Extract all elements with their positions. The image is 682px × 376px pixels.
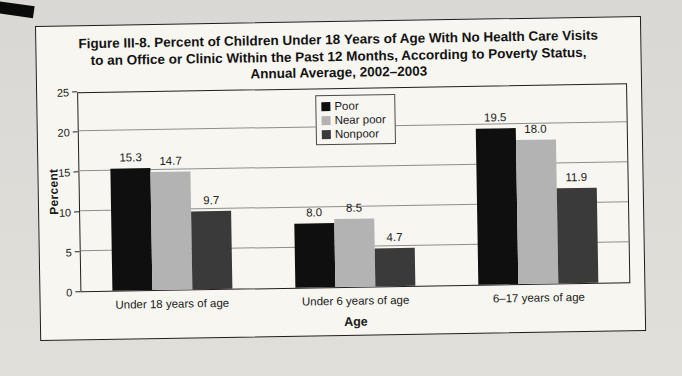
scan-edge-artifact: [0, 0, 35, 18]
bar-value-label: 18.0: [524, 123, 547, 135]
x-category-label: Under 6 years of age: [264, 293, 448, 308]
bar-near-poor: 8.5: [334, 218, 375, 287]
legend: PoorNear poorNonpoor: [315, 94, 396, 145]
legend-label: Nonpoor: [335, 127, 379, 140]
bar-value-label: 19.5: [484, 111, 507, 123]
bar-poor: 19.5: [475, 128, 518, 285]
bar-value-label: 8.0: [306, 206, 322, 218]
bar-near-poor: 18.0: [516, 139, 558, 284]
y-tick-label: 0: [66, 286, 72, 298]
y-tick-label: 25: [57, 86, 69, 98]
bar-group: 15.314.79.7: [78, 90, 264, 291]
y-tick-label: 10: [59, 206, 71, 218]
bar-nonpoor: 4.7: [375, 248, 416, 286]
bar-nonpoor: 11.9: [556, 188, 598, 284]
bar-chart: Percent 0510152025 15.314.79.78.08.54.71…: [36, 17, 645, 340]
bar-value-label: 15.3: [119, 151, 142, 163]
legend-item: Poor: [321, 99, 385, 112]
plot-area: 15.314.79.78.08.54.719.518.011.9 PoorNea…: [77, 83, 630, 292]
bar-near-poor: 14.7: [151, 172, 193, 290]
bar-nonpoor: 9.7: [191, 211, 232, 289]
bar-poor: 15.3: [111, 168, 153, 291]
x-category-label: 6–17 years of age: [447, 290, 631, 305]
bar-group: 19.518.011.9: [443, 84, 629, 285]
y-tick-label: 15: [58, 166, 70, 178]
legend-swatch: [322, 116, 331, 125]
legend-swatch: [321, 102, 330, 111]
x-axis-label: Age: [81, 310, 631, 333]
legend-label: Near poor: [335, 113, 386, 126]
legend-swatch: [322, 130, 331, 139]
bar-value-label: 14.7: [159, 155, 182, 167]
bar-value-label: 9.7: [203, 194, 219, 206]
y-tick-label: 20: [57, 126, 69, 138]
y-tick-label: 5: [66, 246, 72, 258]
bar-value-label: 8.5: [346, 202, 362, 214]
bar-value-label: 11.9: [565, 171, 587, 183]
scanned-page: { "chart_data": { "type": "bar", "title"…: [0, 0, 682, 376]
legend-label: Poor: [334, 100, 358, 112]
figure-box: Figure III-8. Percent of Children Under …: [35, 16, 646, 341]
bar-poor: 8.0: [294, 223, 335, 288]
x-category-labels: Under 18 years of ageUnder 6 years of ag…: [81, 290, 631, 311]
legend-item: Near poor: [322, 113, 386, 126]
legend-item: Nonpoor: [322, 127, 386, 140]
y-axis-ticks: 0510152025: [39, 92, 78, 293]
bar-value-label: 4.7: [386, 231, 402, 243]
x-category-label: Under 18 years of age: [81, 296, 265, 311]
